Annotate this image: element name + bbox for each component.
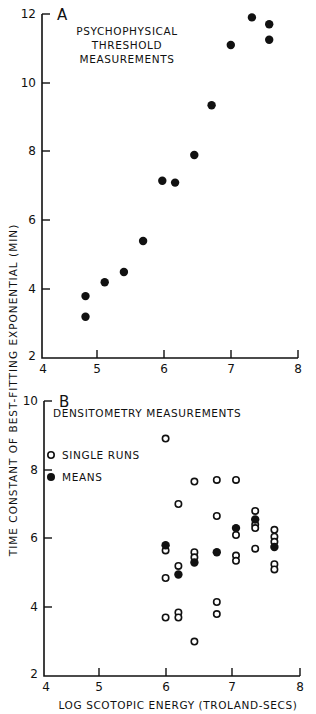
title-line: THRESHOLD bbox=[91, 39, 162, 51]
panel-b: 10 8 6 4 2 4 5 6 7 8 LOG SCOTOPIC ENERGY… bbox=[23, 393, 304, 711]
tick-label: 7 bbox=[227, 362, 235, 376]
open-data-point bbox=[191, 638, 197, 644]
panel-a-letter: A bbox=[57, 6, 68, 24]
tick-label: 6 bbox=[160, 362, 168, 376]
panel-b-axes bbox=[44, 401, 300, 676]
open-data-point bbox=[214, 611, 220, 617]
tick-label: 8 bbox=[28, 144, 36, 158]
filled-data-point bbox=[207, 101, 215, 109]
tick-label: 2 bbox=[30, 667, 38, 681]
filled-data-point bbox=[174, 570, 182, 578]
x-axis-label: LOG SCOTOPIC ENERGY (TROLAND-SECS) bbox=[59, 699, 298, 711]
panel-b-data-points bbox=[161, 435, 278, 644]
open-data-point bbox=[214, 513, 220, 519]
filled-data-point bbox=[101, 278, 109, 286]
panel-a-y-tick-labels: 12 10 8 6 4 2 bbox=[21, 7, 36, 363]
tick-label: 6 bbox=[30, 531, 38, 545]
tick-label: 12 bbox=[21, 7, 36, 21]
open-circle-icon bbox=[48, 452, 54, 458]
filled-data-point bbox=[248, 13, 256, 21]
tick-label: 5 bbox=[93, 362, 101, 376]
open-data-point bbox=[233, 532, 239, 538]
open-data-point bbox=[214, 599, 220, 605]
filled-data-point bbox=[232, 524, 240, 532]
filled-data-point bbox=[139, 237, 147, 245]
tick-label: 6 bbox=[28, 213, 36, 227]
panel-b-title: DENSITOMETRY MEASUREMENTS bbox=[53, 407, 241, 419]
panel-b-x-tick-labels: 4 5 6 7 8 bbox=[42, 680, 304, 694]
open-data-point bbox=[175, 501, 181, 507]
tick-label: 7 bbox=[228, 680, 236, 694]
open-data-point bbox=[271, 566, 277, 572]
panel-a-title: PSYCHOPHYSICAL THRESHOLD MEASUREMENTS bbox=[76, 25, 178, 65]
filled-data-point bbox=[120, 268, 128, 276]
filled-data-point bbox=[227, 41, 235, 49]
filled-data-point bbox=[190, 151, 198, 159]
tick-label: 4 bbox=[30, 600, 38, 614]
panel-a-x-ticks bbox=[97, 350, 298, 358]
y-axis-label: TIME CONSTANT OF BEST-FITTING EXPONENTIA… bbox=[7, 224, 19, 557]
legend: SINGLE RUNS MEANS bbox=[47, 449, 140, 483]
open-data-point bbox=[252, 546, 258, 552]
filled-data-point bbox=[213, 548, 221, 556]
panel-a: 12 10 8 6 4 2 4 5 6 7 8 A PSYCHOPHYSICAL… bbox=[21, 6, 302, 376]
tick-label: 5 bbox=[95, 680, 103, 694]
legend-label-single-runs: SINGLE RUNS bbox=[62, 449, 140, 461]
open-data-point bbox=[233, 477, 239, 483]
title-line: MEASUREMENTS bbox=[80, 53, 175, 65]
tick-label: 4 bbox=[39, 362, 47, 376]
open-data-point bbox=[175, 563, 181, 569]
open-data-point bbox=[252, 508, 258, 514]
open-data-point bbox=[233, 558, 239, 564]
filled-circle-icon bbox=[47, 473, 55, 481]
tick-label: 10 bbox=[23, 394, 38, 408]
open-data-point bbox=[252, 525, 258, 531]
tick-label: 8 bbox=[294, 362, 302, 376]
open-data-point bbox=[175, 614, 181, 620]
legend-label-means: MEANS bbox=[62, 471, 102, 483]
filled-data-point bbox=[81, 313, 89, 321]
tick-label: 8 bbox=[30, 463, 38, 477]
open-data-point bbox=[214, 477, 220, 483]
open-data-point bbox=[191, 478, 197, 484]
figure: TIME CONSTANT OF BEST-FITTING EXPONENTIA… bbox=[0, 0, 316, 714]
filled-data-point bbox=[265, 36, 273, 44]
open-data-point bbox=[162, 575, 168, 581]
open-data-point bbox=[162, 614, 168, 620]
tick-label: 2 bbox=[28, 349, 36, 363]
filled-data-point bbox=[161, 541, 169, 549]
panel-b-y-tick-labels: 10 8 6 4 2 bbox=[23, 394, 38, 681]
tick-label: 4 bbox=[42, 680, 50, 694]
panel-a-y-ticks bbox=[42, 14, 50, 289]
tick-label: 6 bbox=[162, 680, 170, 694]
filled-data-point bbox=[171, 178, 179, 186]
title-line: PSYCHOPHYSICAL bbox=[76, 25, 178, 37]
panel-b-y-ticks bbox=[44, 401, 52, 607]
open-data-point bbox=[162, 435, 168, 441]
filled-data-point bbox=[158, 177, 166, 185]
filled-data-point bbox=[251, 515, 259, 523]
filled-data-point bbox=[190, 558, 198, 566]
panel-a-axes bbox=[42, 14, 298, 358]
tick-label: 4 bbox=[28, 282, 36, 296]
panel-a-x-tick-labels: 4 5 6 7 8 bbox=[39, 362, 302, 376]
filled-data-point bbox=[270, 543, 278, 551]
panel-b-x-ticks bbox=[99, 668, 300, 676]
tick-label: 8 bbox=[296, 680, 304, 694]
open-data-point bbox=[271, 527, 277, 533]
filled-data-point bbox=[265, 20, 273, 28]
filled-data-point bbox=[81, 292, 89, 300]
tick-label: 10 bbox=[21, 76, 36, 90]
